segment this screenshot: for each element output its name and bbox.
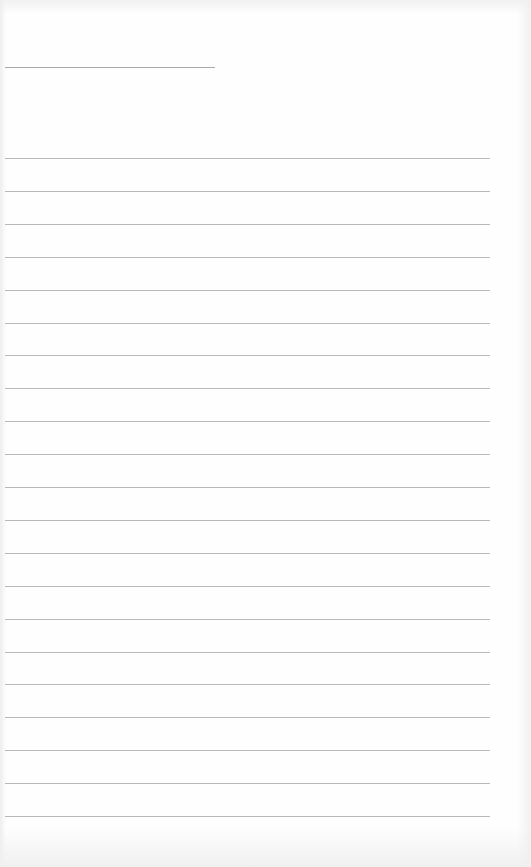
ruled-line — [5, 158, 490, 159]
ruled-line — [5, 421, 490, 422]
ruled-line — [5, 224, 490, 225]
ruled-line — [5, 553, 490, 554]
ruled-line — [5, 355, 490, 356]
ruled-line — [5, 652, 490, 653]
ruled-line — [5, 717, 490, 718]
ruled-line — [5, 454, 490, 455]
scan-shadow-left — [0, 0, 6, 867]
ruled-line — [5, 323, 490, 324]
scan-shadow-right — [517, 0, 531, 867]
lined-page — [0, 0, 531, 867]
ruled-line — [5, 520, 490, 521]
ruled-line — [5, 290, 490, 291]
ruled-line — [5, 619, 490, 620]
ruled-line — [5, 388, 490, 389]
scan-shadow-bottom — [0, 827, 531, 867]
ruled-line — [5, 586, 490, 587]
ruled-line — [5, 191, 490, 192]
header-line — [5, 67, 215, 68]
ruled-line — [5, 816, 490, 817]
ruled-line — [5, 684, 490, 685]
ruled-line — [5, 487, 490, 488]
scan-shadow-top — [0, 0, 531, 14]
ruled-line — [5, 783, 490, 784]
ruled-line — [5, 750, 490, 751]
ruled-line — [5, 257, 490, 258]
